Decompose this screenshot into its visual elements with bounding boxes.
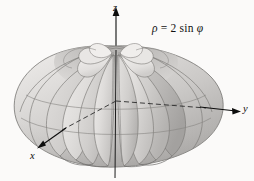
equation-phi: φ	[194, 22, 204, 34]
surface-body	[0, 32, 254, 180]
equation-label: ρ = 2 sin φ	[152, 22, 203, 34]
equation-equals: = 2	[158, 22, 180, 34]
y-axis-label: y	[243, 103, 248, 114]
equation-sin: sin	[180, 22, 194, 34]
y-axis-arrowhead	[232, 108, 241, 115]
z-axis-label: z	[113, 2, 117, 13]
axis-lines-rear	[113, 7, 120, 50]
x-axis-label: x	[30, 150, 35, 161]
figure-container: ρ = 2 sin φ z y x	[0, 0, 254, 181]
surface-plot-svg	[0, 0, 254, 181]
